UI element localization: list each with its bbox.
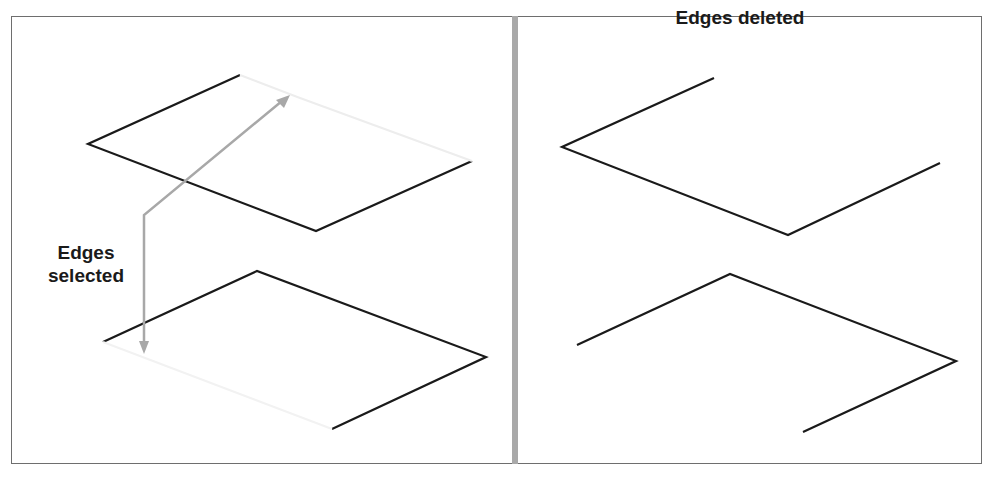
- edges-selected-label: Edges selected: [28, 241, 144, 287]
- selected-edges-upper: [240, 75, 472, 161]
- selected-edges-lower: [103, 342, 332, 429]
- left-lower-edges: [103, 271, 486, 429]
- diagram-canvas: [0, 0, 989, 478]
- label-line-1: Edges: [28, 241, 144, 264]
- label-line-2: selected: [28, 264, 144, 287]
- arrow-head-up-icon: [276, 95, 290, 108]
- right-upper-edges: [562, 78, 940, 235]
- edges-deleted-label: Edges deleted: [640, 6, 840, 29]
- arrow-head-down-icon: [139, 341, 149, 354]
- right-lower-edges: [577, 274, 956, 432]
- left-upper-edges: [88, 75, 472, 231]
